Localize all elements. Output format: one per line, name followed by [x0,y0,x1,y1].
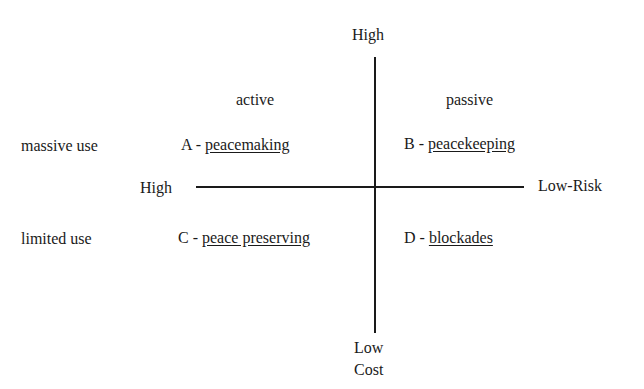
quadrant-c-letter: C - [178,229,202,246]
quadrant-b: B - peacekeeping [404,136,515,152]
row-massive-use-label: massive use [21,138,98,154]
quadrant-a-letter: A - [181,136,205,153]
quadrant-d-letter: D - [404,229,429,246]
risk-high-label: High [140,180,172,196]
cost-axis-title: Cost [354,362,383,378]
quadrant-c-name: peace preserving [202,229,310,246]
horizontal-axis-line [196,186,524,188]
vertical-axis-line [374,57,376,333]
cost-high-label: High [352,27,384,43]
quadrant-a: A - peacemaking [181,137,289,153]
quadrant-c: C - peace preserving [178,230,310,246]
cost-low-label: Low [354,340,383,356]
quadrant-b-name: peacekeeping [428,135,515,152]
column-active-label: active [236,92,274,108]
quadrant-b-letter: B - [404,135,428,152]
risk-low-label: Low-Risk [538,178,602,194]
quadrant-a-name: peacemaking [205,136,289,153]
column-passive-label: passive [446,92,493,108]
quadrant-d: D - blockades [404,230,493,246]
row-limited-use-label: limited use [21,231,92,247]
quadrant-d-name: blockades [429,229,493,246]
